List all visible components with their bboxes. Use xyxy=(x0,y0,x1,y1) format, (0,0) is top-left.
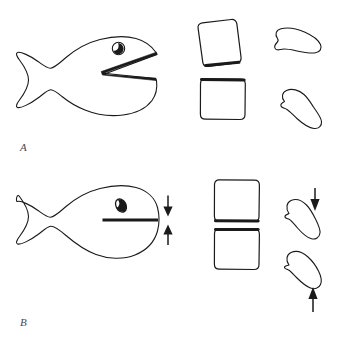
panel-b-blob-arrows xyxy=(308,188,319,312)
panel-b-fish-arrows xyxy=(163,196,172,246)
panel-a-square-top xyxy=(197,18,242,67)
square-top-emphasized-edge xyxy=(206,61,239,67)
fish-body-outline xyxy=(16,37,157,116)
fish-mouth-open-wedge xyxy=(101,52,157,80)
arrow-fish-up-icon xyxy=(163,225,172,246)
panel-b-square-bottom xyxy=(214,229,259,270)
fish-body-outline xyxy=(16,186,159,258)
square-bottom-outline xyxy=(214,229,259,270)
panel-a-square-bottom xyxy=(200,79,245,120)
square-top-outline xyxy=(197,18,242,67)
panel-b-fish xyxy=(16,186,159,258)
arrow-blob-down-icon xyxy=(310,188,319,211)
square-bottom-outline xyxy=(200,79,245,120)
panel-b-label: B xyxy=(20,316,27,328)
figure-root: A B xyxy=(0,0,341,344)
panel-a-blob-top xyxy=(275,28,321,53)
figure-canvas xyxy=(0,0,341,344)
arrow-fish-down-icon xyxy=(163,196,172,217)
arrow-blob-up-icon xyxy=(308,287,317,312)
panel-a-group xyxy=(16,18,321,128)
panel-a-label: A xyxy=(20,141,27,153)
square-top-outline xyxy=(214,180,259,222)
panel-a-blob-bottom xyxy=(281,89,322,128)
panel-b-blob-bottom xyxy=(284,252,321,289)
panel-a-fish xyxy=(16,37,157,116)
panel-b-group xyxy=(16,180,321,312)
panel-b-square-top xyxy=(214,180,259,222)
fish-eye-group xyxy=(113,197,128,214)
